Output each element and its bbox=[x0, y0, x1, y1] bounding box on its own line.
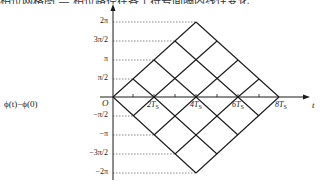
phase-trellis-diagram: 相位网格图 — 相位路径在各个符号间隔内线性变化 bbox=[0, 0, 324, 184]
y-tick-label: π bbox=[78, 54, 108, 63]
x-axis-arrow-icon bbox=[303, 95, 310, 100]
y-tick-label: 3π/2 bbox=[78, 35, 108, 44]
trellis-svg bbox=[0, 0, 324, 184]
x-tick-subscript: S bbox=[155, 104, 158, 110]
y-tick-label: −π/2 bbox=[78, 110, 108, 119]
x-tick-subscript: S bbox=[198, 104, 201, 110]
x-tick-label: 6TS bbox=[232, 100, 244, 110]
x-axis-label: t bbox=[312, 100, 315, 110]
y-axis-label: ϕ(t)−ϕ(0) bbox=[4, 99, 38, 109]
x-tick-label: 2TS bbox=[147, 100, 159, 110]
y-tick-label: −3π/2 bbox=[78, 148, 108, 157]
x-tick-label: 4TS bbox=[190, 100, 202, 110]
y-axis-arrow-icon bbox=[111, 4, 116, 11]
origin-label: O bbox=[102, 98, 109, 108]
y-tick-label: −π bbox=[78, 129, 108, 138]
y-tick-label: 2π bbox=[78, 16, 108, 25]
x-tick-subscript: S bbox=[283, 104, 286, 110]
x-tick-label: 8TS bbox=[275, 100, 287, 110]
y-tick-label: π/2 bbox=[78, 73, 108, 82]
x-tick-subscript: S bbox=[240, 104, 243, 110]
y-tick-label: −2π bbox=[78, 167, 108, 176]
